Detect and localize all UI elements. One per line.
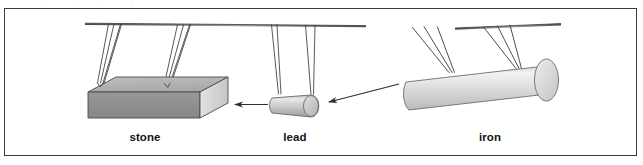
- iron-cylinder: [403, 59, 558, 110]
- label-lead: lead: [255, 131, 335, 143]
- support-bar-right: [455, 24, 561, 30]
- figure-root: ' ' ' ': [0, 0, 643, 165]
- label-iron: iron: [450, 131, 530, 143]
- label-stone: stone: [100, 131, 190, 143]
- arrow-iron-to-lead: [329, 84, 399, 102]
- iron-strings: [413, 25, 522, 72]
- lead-cylinder: [269, 95, 318, 117]
- support-bar-left: [85, 23, 366, 27]
- lead-strings: [272, 25, 316, 94]
- stone-strings: [98, 24, 191, 84]
- stone-block: [88, 77, 228, 118]
